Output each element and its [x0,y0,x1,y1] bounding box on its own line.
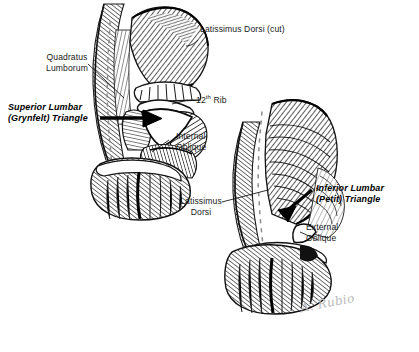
right-figure [225,100,345,314]
twelfth-rib-number: 12 [196,95,206,105]
label-twelfth-rib: 12th Rib [196,95,227,106]
label-latissimus-dorsi: Latissimus Dorsi [170,196,232,217]
label-latissimus-dorsi-cut: Latissimus Dorsi (cut) [200,24,285,35]
anatomical-figure: Quadratus Lumborum Superior Lumbar (Gryn… [0,0,419,352]
label-external-oblique: External Oblique [306,222,338,243]
label-internal-oblique: Internal Oblique [176,131,206,152]
twelfth-rib-word: Rib [213,95,226,105]
label-superior-lumbar-grynfelt-triangle: Superior Lumbar (Grynfelt) Triangle [8,102,128,124]
twelfth-rib-ordinal: th [206,94,211,100]
label-inferior-lumbar-petit-triangle: Inferior Lumbar (Petit) Triangle [316,183,416,205]
label-quadratus-lumborum: Quadratus Lumborum [28,52,106,73]
